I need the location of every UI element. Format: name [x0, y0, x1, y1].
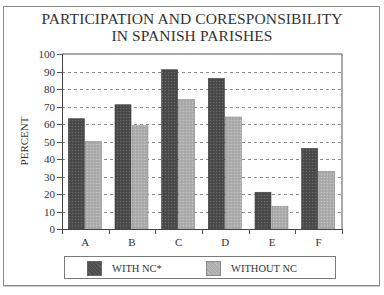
legend-item-without-nc: WITHOUT NC	[206, 260, 297, 276]
bar-a-series-1	[85, 142, 101, 230]
y-tick-label: 20	[44, 188, 56, 200]
bars	[68, 70, 334, 229]
legend-swatch-without-nc	[206, 261, 221, 276]
bar-e-series-1	[272, 206, 288, 229]
bar-b-series-0	[115, 105, 131, 229]
legend: WITH NC* WITHOUT NC	[64, 256, 336, 279]
x-tick-label: B	[128, 236, 135, 248]
bar-f-series-1	[319, 171, 335, 229]
bar-b-series-1	[132, 126, 148, 229]
y-tick-label: 10	[44, 206, 56, 218]
y-tick-label: 80	[44, 83, 56, 95]
y-tick-label: 70	[44, 101, 56, 113]
legend-swatch-with-nc	[87, 261, 102, 276]
y-tick-label: 0	[50, 223, 56, 235]
y-axis-ticks: 0102030405060708090100	[39, 48, 63, 235]
y-tick-label: 40	[44, 153, 56, 165]
legend-item-with-nc: WITH NC*	[87, 260, 162, 276]
y-tick-label: 100	[39, 48, 56, 60]
plot-area: 0102030405060708090100 ABCDEF	[0, 0, 384, 295]
y-tick-label: 90	[44, 66, 56, 78]
bar-c-series-0	[162, 70, 178, 229]
x-axis-ticks: ABCDEF	[81, 229, 342, 248]
bar-c-series-1	[179, 100, 195, 230]
y-tick-label: 50	[44, 136, 56, 148]
y-tick-label: 30	[44, 171, 56, 183]
legend-label-with-nc: WITH NC*	[112, 263, 162, 274]
bar-f-series-0	[302, 149, 318, 230]
x-tick-label: D	[221, 236, 229, 248]
bar-a-series-0	[68, 119, 84, 229]
x-tick-label: C	[175, 236, 182, 248]
gridlines	[62, 73, 342, 213]
y-tick-label: 60	[44, 118, 56, 130]
legend-label-without-nc: WITHOUT NC	[231, 263, 297, 274]
x-tick-label: E	[269, 236, 276, 248]
bar-d-series-1	[225, 117, 241, 229]
x-tick-label: F	[316, 236, 322, 248]
bar-d-series-0	[208, 79, 224, 230]
x-tick-label: A	[81, 236, 89, 248]
bar-e-series-0	[255, 192, 271, 229]
